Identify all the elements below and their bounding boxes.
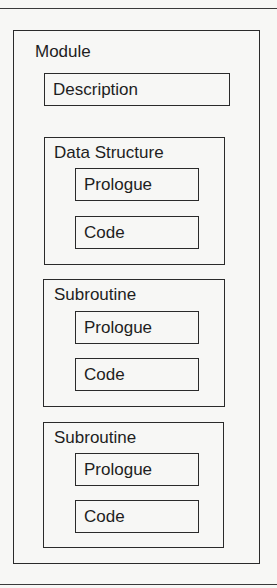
subroutine-box-2: Subroutine Prologue Code — [43, 422, 224, 548]
subroutine-2-prologue-box: Prologue — [75, 453, 199, 486]
prologue-label: Prologue — [84, 460, 152, 480]
data-structure-box: Data Structure Prologue Code — [44, 137, 225, 265]
bottom-rule — [0, 584, 277, 585]
subroutine-box-1: Subroutine Prologue Code — [43, 279, 225, 407]
subroutine-1-prologue-box: Prologue — [75, 311, 199, 344]
code-label: Code — [84, 223, 125, 243]
code-label: Code — [84, 507, 125, 527]
data-structure-code-box: Code — [75, 216, 199, 249]
prologue-label: Prologue — [84, 175, 152, 195]
prologue-label: Prologue — [84, 318, 152, 338]
description-box: Description — [44, 73, 230, 106]
subroutine-label-1: Subroutine — [54, 286, 136, 303]
module-box: Module Description Data Structure Prolog… — [13, 30, 260, 564]
data-structure-prologue-box: Prologue — [75, 168, 199, 201]
module-label: Module — [35, 43, 91, 60]
description-label: Description — [53, 80, 138, 100]
code-label: Code — [84, 365, 125, 385]
data-structure-label: Data Structure — [54, 144, 164, 161]
subroutine-2-code-box: Code — [75, 500, 199, 533]
top-rule — [0, 8, 277, 9]
subroutine-label-2: Subroutine — [54, 429, 136, 446]
subroutine-1-code-box: Code — [75, 358, 199, 391]
